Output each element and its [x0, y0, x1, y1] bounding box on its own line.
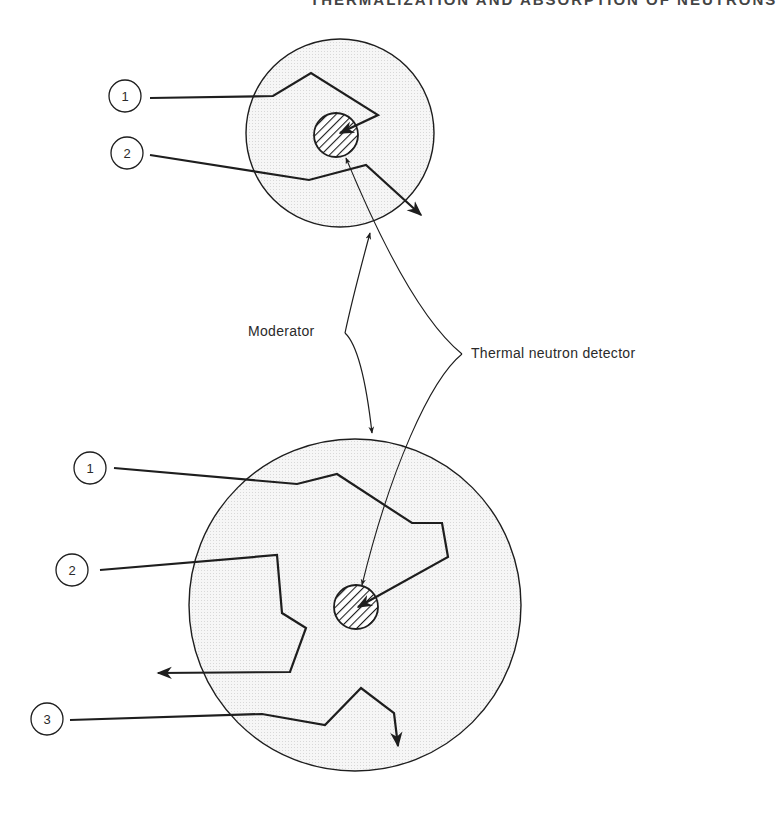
path-number: 3	[43, 712, 50, 727]
small-detector-icon	[314, 113, 358, 157]
path-number: 2	[68, 563, 75, 578]
path-number: 1	[121, 89, 128, 104]
path-number: 1	[86, 461, 93, 476]
detector-label: Thermal neutron detector	[471, 345, 635, 361]
small-moderator-sphere: 1 2	[109, 39, 434, 227]
large-moderator-sphere: 1 2 3	[31, 439, 521, 771]
path-number: 2	[123, 146, 130, 161]
moderator-leader-lines	[345, 233, 372, 433]
large-detector-icon	[334, 585, 378, 629]
moderator-label: Moderator	[248, 323, 315, 339]
